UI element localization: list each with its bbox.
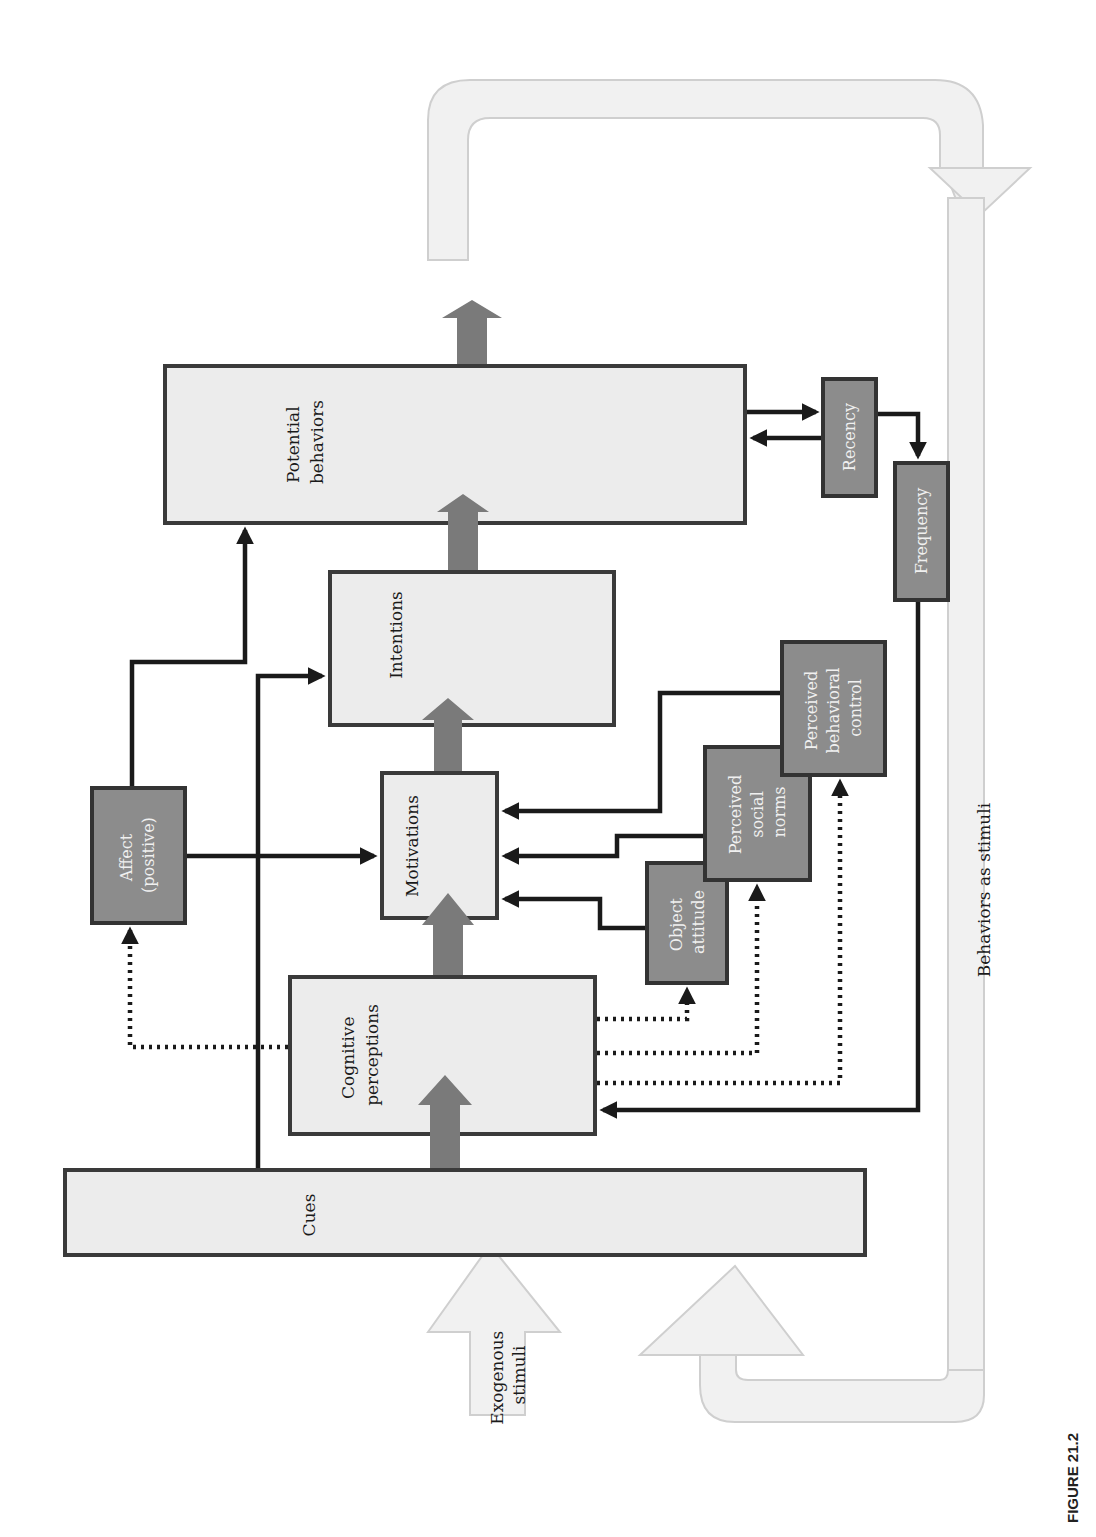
loop-arrow-bottom [700,1352,984,1422]
behavior-model-diagram: Behaviors as stimuli Exogenous stimuli C… [0,0,1096,1537]
recency-to-frequency-line [878,414,918,456]
social-norms-to-motivations-line [505,836,703,856]
behaviors-as-stimuli-label: Behaviors as stimuli [974,802,994,977]
recency-node: Recency [823,379,876,496]
intentions-node: Intentions [330,572,614,725]
intentions-label: Intentions [386,591,406,679]
loop-arrow-right-bar [948,198,984,1378]
potential-behaviors-node: Potential behaviors [165,366,745,523]
cues-label: Cues [299,1194,319,1237]
cognitive-to-affect-dotted [130,930,288,1047]
object-attitude-to-motivations-line [505,899,645,928]
frequency-label: Frequency [912,488,931,575]
affect-to-behaviors-line [132,530,245,786]
figure-caption: FIGURE 21.2 [1064,1433,1081,1523]
affect-node: Affect (positive) [92,788,185,923]
exogenous-stimuli-arrow: Exogenous stimuli [428,1245,560,1425]
cues-node: Cues [65,1170,865,1255]
frequency-node: Frequency [895,463,948,600]
motivations-label: Motivations [402,795,422,897]
motivations-node: Motivations [382,773,497,918]
perceived-behavioral-control-node: Perceived behavioral control [782,642,885,775]
recency-label: Recency [840,403,859,471]
cognitive-to-object-attitude-dotted [597,990,687,1019]
arrow-behaviors-out [442,300,502,364]
loop-arrowhead-up [640,1266,803,1355]
